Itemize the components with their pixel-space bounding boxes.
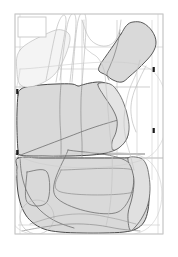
notch-right-upper[interactable] [153, 67, 155, 72]
title-block-frame[interactable] [18, 17, 46, 37]
notch-left-lower[interactable] [16, 150, 18, 155]
notch-right-lower[interactable] [153, 128, 155, 133]
marker-drawing[interactable] [0, 0, 178, 257]
pattern-marker-canvas [0, 0, 178, 257]
title-block-group[interactable] [18, 17, 46, 37]
notch-left-upper[interactable] [16, 89, 18, 94]
